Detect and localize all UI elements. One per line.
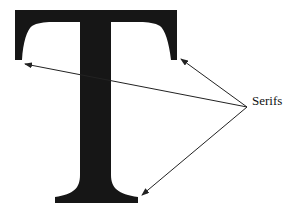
serifs-label: Serifs	[252, 93, 282, 109]
arrows	[25, 59, 247, 195]
arrow-left-serif	[25, 64, 247, 107]
arrow-right-serif	[181, 59, 247, 107]
letter-t-glyph	[15, 10, 177, 203]
arrow-bottom-serif	[142, 107, 247, 195]
